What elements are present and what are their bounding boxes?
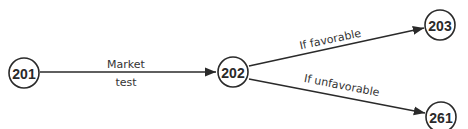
node-label-261: 261 (429, 110, 453, 126)
node-261: 261 (426, 102, 456, 129)
node-label-201: 201 (12, 66, 36, 82)
node-203: 203 (425, 10, 455, 40)
decision-diagram: Market test If favorable If unfavorable … (0, 0, 468, 129)
edge-label-test: test (115, 76, 137, 89)
edge-label-if-unfavorable: If unfavorable (303, 72, 381, 99)
edge-label-market: Market (107, 58, 145, 71)
node-201: 201 (9, 58, 39, 88)
node-202: 202 (218, 57, 248, 87)
node-label-202: 202 (221, 65, 245, 81)
node-label-203: 203 (428, 18, 452, 34)
